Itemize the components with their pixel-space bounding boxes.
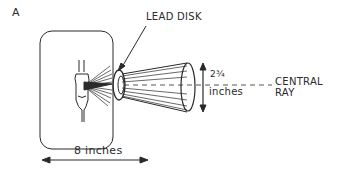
- cone-end: [181, 63, 195, 111]
- panel-label: A: [12, 7, 20, 18]
- tooth: [75, 60, 89, 122]
- distance-label: 8 inches: [74, 145, 122, 156]
- diameter-unit: inches: [209, 86, 243, 97]
- central-ray-label-1: CENTRAL: [275, 76, 323, 87]
- lead-disk: [113, 70, 125, 100]
- central-ray-label-2: RAY: [275, 87, 295, 98]
- diameter-value: 2¾: [210, 69, 225, 80]
- lead-disk-label: LEAD DISK: [146, 11, 202, 22]
